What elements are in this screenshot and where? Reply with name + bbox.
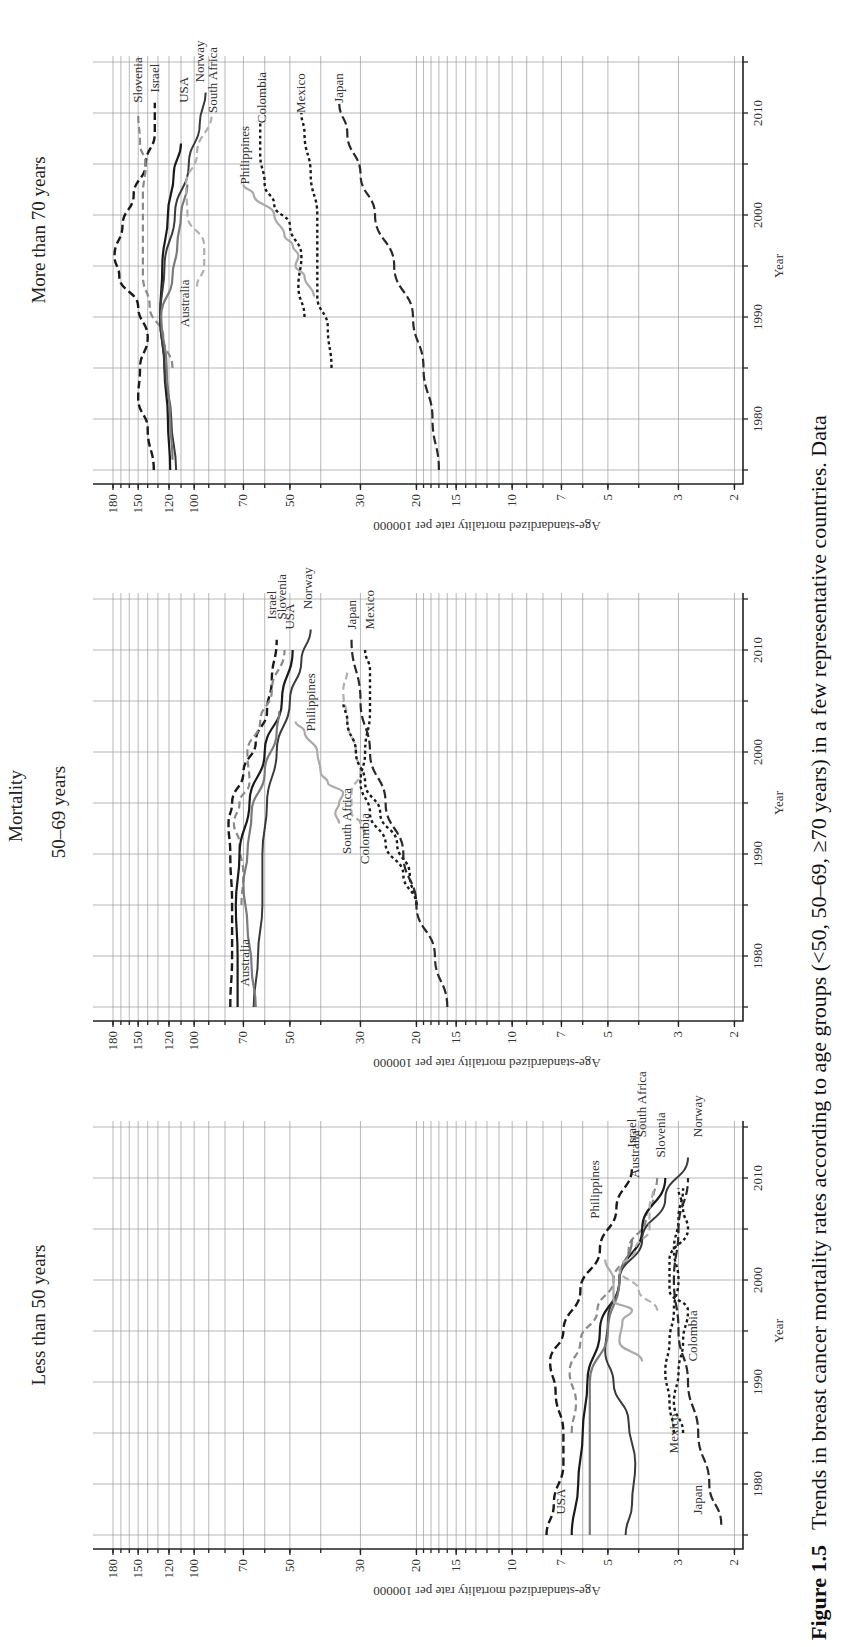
- value-tick-label: 2: [726, 1031, 741, 1038]
- year-tick-label: 1980: [750, 1471, 765, 1497]
- value-tick-label: 5: [600, 1559, 615, 1566]
- value-tick-label: 150: [130, 1559, 145, 1579]
- value-tick-label: 15: [448, 1031, 463, 1044]
- value-tick-label: 3: [670, 1031, 685, 1038]
- value-tick-label: 3: [670, 494, 685, 501]
- series-line-japan: [339, 103, 439, 470]
- series-label: Australia: [627, 1130, 642, 1178]
- value-tick-label: 120: [161, 1031, 176, 1051]
- caption-text: Trends in breast cancer mortality rates …: [806, 415, 831, 1530]
- series-label: Norway: [300, 567, 315, 609]
- series-label: Japan: [331, 73, 346, 103]
- year-tick-label: 2010: [750, 100, 765, 126]
- series-label: Philippines: [587, 1160, 602, 1219]
- series-line-colombia: [260, 123, 304, 317]
- value-tick-label: 180: [105, 1559, 120, 1579]
- caption-label: Figure 1.5: [806, 1545, 831, 1640]
- series-label: Japan: [344, 600, 359, 630]
- figure-heading: Mortality: [5, 770, 26, 842]
- series-line-philippines: [296, 721, 344, 823]
- year-tick-label: 2000: [750, 202, 765, 228]
- value-tick-label: 7: [553, 1559, 568, 1566]
- y-axis-title: Age-standardized mortality rate per 1000…: [373, 1584, 600, 1599]
- series-label: South Africa: [339, 788, 354, 854]
- series-line-slovenia: [234, 650, 285, 905]
- year-tick-label: 2010: [750, 1165, 765, 1191]
- axis-lines: [93, 593, 743, 1021]
- value-tick-label: 15: [448, 494, 463, 507]
- axis-lines: [93, 56, 743, 484]
- x-axis-title: Year: [771, 1318, 786, 1343]
- value-tick-label: 180: [105, 1031, 120, 1051]
- svg-text:Figure 1.5 Trends in bre: Figure 1.5 Trends in breast cancer morta…: [806, 415, 831, 1640]
- series-label: Japan: [690, 1485, 705, 1515]
- value-tick-label: 10: [504, 1031, 519, 1044]
- value-tick-label: 2: [726, 494, 741, 501]
- axis-lines: [93, 1121, 743, 1549]
- series-label: Philippines: [303, 673, 318, 732]
- series-label: Colombia: [357, 813, 372, 865]
- x-axis-title: Year: [771, 790, 786, 815]
- figure-canvas: 1801501201007050302015107532198019902000…: [0, 0, 845, 1647]
- panel-headings: Mortality: [5, 770, 26, 842]
- series-label: Mexico: [293, 73, 308, 113]
- value-tick-label: 7: [553, 494, 568, 501]
- value-tick-label: 2: [726, 1559, 741, 1566]
- year-tick-label: 1990: [750, 1369, 765, 1395]
- y-axis-title: Age-standardized mortality rate per 1000…: [373, 519, 600, 534]
- series-line-usa: [572, 1178, 666, 1535]
- value-tick-label: 100: [186, 1031, 201, 1051]
- series-line-israel: [229, 640, 277, 1007]
- chart-panel-2: 1801501201007050302015107532198019902000…: [48, 567, 786, 1071]
- series-line-south-africa: [186, 113, 212, 286]
- value-tick-label: 20: [408, 494, 423, 507]
- value-tick-label: 70: [235, 1031, 250, 1044]
- series-label: USA: [176, 76, 191, 103]
- value-tick-label: 30: [352, 1559, 367, 1572]
- series-label: Mexico: [666, 1414, 681, 1454]
- series-label: USA: [553, 1488, 568, 1515]
- year-tick-label: 2000: [750, 739, 765, 765]
- value-tick-label: 30: [352, 1031, 367, 1044]
- year-tick-label: 2010: [750, 637, 765, 663]
- y-axis-title: Age-standardized mortality rate per 1000…: [373, 1056, 600, 1071]
- x-axis-title: Year: [771, 253, 786, 278]
- value-tick-label: 20: [408, 1559, 423, 1572]
- value-tick-label: 50: [282, 494, 297, 507]
- series-line-australia: [590, 1239, 632, 1535]
- panel-title: 50–69 years: [48, 766, 69, 858]
- value-tick-label: 3: [670, 1559, 685, 1566]
- value-tick-label: 7: [553, 1031, 568, 1038]
- series-label: Israel: [147, 63, 162, 92]
- value-tick-label: 20: [408, 1031, 423, 1044]
- chart-panels: 1801501201007050302015107532198019902000…: [28, 40, 786, 1599]
- panel-title: More than 70 years: [28, 156, 49, 303]
- series-label: South Africa: [205, 47, 220, 113]
- year-tick-label: 1980: [750, 406, 765, 432]
- value-tick-label: 180: [105, 494, 120, 514]
- series-label: Mexico: [362, 590, 377, 630]
- value-tick-label: 100: [186, 1559, 201, 1579]
- series-label: Colombia: [254, 72, 269, 124]
- panel-title: Less than 50 years: [28, 1245, 49, 1386]
- chart-panel-1: 1801501201007050302015107532198019902000…: [28, 40, 786, 534]
- series-label: Slovenia: [130, 57, 145, 103]
- value-tick-label: 5: [600, 494, 615, 501]
- series-label: Philippines: [237, 126, 252, 185]
- series-label: South Africa: [634, 1071, 649, 1137]
- chart-panel-3: 1801501201007050302015107532198019902000…: [28, 1071, 786, 1599]
- value-tick-label: 70: [235, 1559, 250, 1572]
- series-label: Norway: [690, 1095, 705, 1137]
- value-tick-label: 150: [130, 1031, 145, 1051]
- value-tick-label: 30: [352, 494, 367, 507]
- year-tick-label: 2000: [750, 1267, 765, 1293]
- value-tick-label: 70: [235, 494, 250, 507]
- value-tick-label: 50: [282, 1559, 297, 1572]
- value-tick-label: 5: [600, 1031, 615, 1038]
- value-tick-label: 150: [130, 494, 145, 514]
- series-label: Australia: [177, 279, 192, 327]
- value-tick-label: 10: [504, 1559, 519, 1572]
- figure-caption: Figure 1.5 Trends in breast cancer morta…: [806, 415, 831, 1640]
- value-tick-label: 10: [504, 494, 519, 507]
- series-line-philippines: [243, 184, 314, 296]
